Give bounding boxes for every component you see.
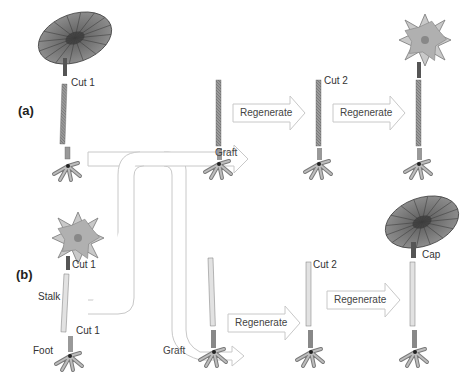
cell-a-regen1: [305, 80, 331, 178]
label-regenerate-b2: Regenerate: [334, 295, 386, 305]
label-graft-b: Graft: [163, 346, 185, 356]
label-stalk: Stalk: [38, 292, 60, 302]
row-label-b: (b): [16, 268, 33, 281]
label-cap: Cap: [422, 250, 440, 260]
label-cut2-b: Cut 2: [313, 260, 337, 270]
label-cut1-a: Cut 1: [71, 78, 95, 88]
row-label-a: (a): [18, 104, 34, 117]
label-regenerate-b1: Regenerate: [235, 318, 287, 328]
cell-b-regen2: [378, 186, 466, 366]
label-cut1-b-top: Cut 1: [72, 260, 96, 270]
graft-arrows: [88, 145, 248, 366]
label-graft-a: Graft: [215, 148, 237, 158]
cell-b-grafted: [200, 258, 226, 366]
label-regenerate-a1: Regenerate: [240, 108, 292, 118]
cell-a-regen2: [398, 14, 451, 178]
label-cut2-a: Cut 2: [324, 76, 348, 86]
label-foot: Foot: [33, 346, 53, 356]
label-cut1-b-bottom: Cut 1: [76, 326, 100, 336]
cell-b-regen1: [297, 262, 323, 366]
label-regenerate-a2: Regenerate: [340, 108, 392, 118]
